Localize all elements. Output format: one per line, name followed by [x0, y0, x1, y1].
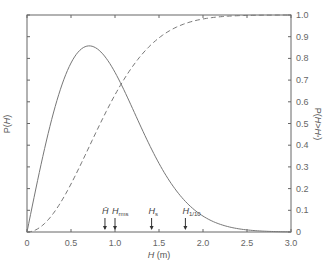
y-right-tick-label: 0.9 [296, 32, 309, 42]
arrow-down-icon [113, 226, 117, 230]
x-axis-ticks: 00.51.01.52.02.53.0 [24, 15, 297, 248]
probability-density-curve [27, 46, 291, 232]
plot-frame [27, 15, 291, 232]
annotation-layer: H̄HrmsHsH1/10 [102, 206, 201, 230]
x-tick-label: 0.5 [65, 238, 78, 248]
y-right-tick-label: 0.4 [296, 140, 309, 150]
marker-label: Hs [149, 206, 159, 217]
marker-label: H̄ [102, 206, 109, 216]
y-axis-right-label: P(H>H*) [313, 108, 323, 141]
y-right-tick-label: 0.1 [296, 205, 309, 215]
x-tick-label: 0 [24, 238, 29, 248]
y-right-tick-label: 0.6 [296, 97, 309, 107]
y-right-tick-label: 0.5 [296, 119, 309, 129]
y-right-tick-label: 0.8 [296, 53, 309, 63]
x-tick-label: 2.5 [241, 238, 254, 248]
y-right-tick-label: 0.7 [296, 75, 309, 85]
arrow-down-icon [183, 226, 187, 230]
x-tick-label: 1.5 [153, 238, 166, 248]
x-tick-label: 2.0 [197, 238, 210, 248]
arrow-down-icon [150, 226, 154, 230]
series-layer [27, 15, 291, 232]
x-axis-label: H (m) [148, 250, 171, 260]
x-tick-label: 1.0 [109, 238, 122, 248]
x-tick-label: 3.0 [285, 238, 298, 248]
y-axis-left-label: P(H) [2, 115, 12, 134]
y-right-tick-label: 0.3 [296, 162, 309, 172]
y-right-tick-label: 1.0 [296, 10, 309, 20]
rayleigh-distribution-chart: 00.10.20.30.40.50.60.70.80.91.0 00.51.01… [0, 0, 331, 269]
marker-label: Hrms [112, 206, 129, 217]
exceedance-curve [27, 15, 291, 232]
y-right-tick-label: 0.2 [296, 184, 309, 194]
arrow-down-icon [103, 226, 107, 230]
y-right-tick-label: 0 [296, 227, 301, 237]
